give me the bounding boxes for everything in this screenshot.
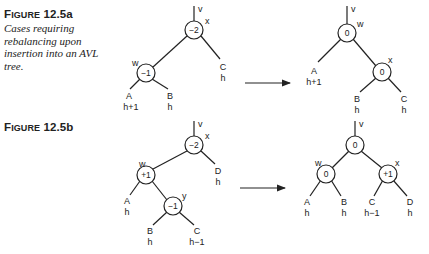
- balance-value: 0: [380, 67, 385, 77]
- subtree-height: h−1: [364, 208, 379, 218]
- pointer-label: v: [198, 4, 203, 14]
- subtree-height: h: [401, 105, 406, 115]
- subtree-height: h: [220, 73, 225, 83]
- fig-b-after-edges: [310, 121, 407, 196]
- subtree-height: h: [304, 208, 309, 218]
- subtree-name: B: [354, 94, 360, 104]
- balance-value: −1: [168, 201, 178, 211]
- node-name-label: w: [138, 159, 146, 169]
- subtree-height: h: [341, 208, 346, 218]
- node-name-label: y: [182, 191, 187, 201]
- balance-value: +1: [383, 169, 393, 179]
- subtree-height: h−1: [189, 237, 204, 247]
- subtree-name: A: [311, 66, 317, 76]
- subtree-name: D: [215, 166, 222, 176]
- pointer-label: v: [359, 119, 364, 129]
- subtree-name: B: [341, 197, 347, 207]
- balance-value: 0: [353, 140, 358, 150]
- subtree-name: C: [369, 197, 376, 207]
- balance-value: 0: [324, 169, 329, 179]
- balance-value: −1: [141, 68, 151, 78]
- subtree-name: C: [194, 226, 201, 236]
- subtree-name: A: [304, 197, 310, 207]
- subtree-height: h: [147, 237, 152, 247]
- subtree-name: C: [401, 94, 408, 104]
- node-name-label: x: [205, 131, 210, 141]
- subtree-name: C: [220, 62, 227, 72]
- node-name-label: x: [388, 55, 393, 65]
- subtree-name: B: [167, 91, 173, 101]
- node-name-label: x: [205, 16, 210, 26]
- pointer-label: v: [198, 119, 203, 129]
- subtree-name: B: [147, 226, 153, 236]
- pointer-label: v: [351, 4, 356, 14]
- subtree-height: h: [407, 208, 412, 218]
- balance-value: 0: [345, 28, 350, 38]
- subtree-height: h: [215, 177, 220, 187]
- subtree-name: A: [124, 196, 130, 206]
- balance-value: +1: [141, 170, 151, 180]
- node-name-label: w: [314, 158, 322, 168]
- subtree-height: h+1: [306, 77, 321, 87]
- balance-value: −2: [189, 140, 199, 150]
- node-name-label: x: [395, 158, 400, 168]
- subtree-height: h: [354, 105, 359, 115]
- avl-diagrams: −2 −1 0 0 −2 +1 −1 0 0 +1 v x w v w x v …: [0, 0, 429, 254]
- subtree-height: h+1: [123, 102, 138, 112]
- subtree-name: A: [126, 91, 132, 101]
- node-name-label: w: [131, 58, 139, 68]
- subtree-height: h: [167, 102, 172, 112]
- balance-value: −2: [189, 25, 199, 35]
- node-name-label: w: [356, 19, 364, 29]
- subtree-height: h: [124, 207, 129, 217]
- subtree-name: D: [407, 197, 414, 207]
